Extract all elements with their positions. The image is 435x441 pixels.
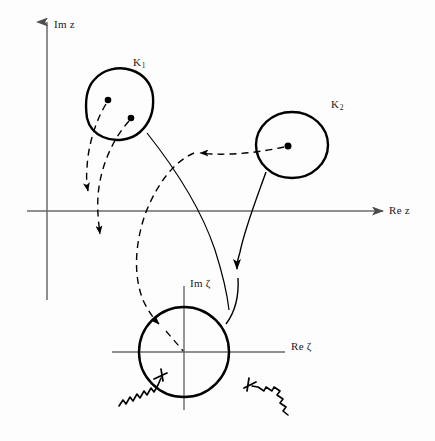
k1-point-2 (128, 115, 135, 122)
solid-mapping-curves (147, 133, 266, 324)
dashed-k1-dot1-down (87, 104, 106, 191)
re-z-axis-label: Re z (389, 204, 410, 216)
curve-k1-to-zeta (147, 133, 229, 310)
dashed-zeta-circle-inner (166, 331, 184, 352)
dashed-k2-dot-to-left (200, 147, 284, 154)
re-zeta-axis-label: Re ζ (291, 340, 312, 352)
squiggle-left-line (119, 378, 161, 406)
k1-label: K1 (133, 56, 145, 68)
z-plane-axes (27, 22, 383, 300)
k1-boundary (86, 68, 153, 140)
dashed-long-to-zeta-circle (137, 153, 194, 324)
figure-canvas (0, 0, 435, 441)
k2-point-1 (285, 143, 292, 150)
complex-plane-mapping-figure: Im z Re z K1 K2 Im ζ Re ζ (0, 0, 435, 441)
k2-boundary (256, 112, 328, 178)
k2-label: K2 (331, 98, 343, 110)
squiggle-right-line (252, 386, 288, 415)
zeta-plane-axes (112, 286, 285, 410)
squiggle-right-arrowhead (244, 378, 256, 391)
region-k1 (86, 68, 153, 140)
k1-point-1 (105, 97, 112, 104)
im-zeta-axis-label: Im ζ (190, 277, 211, 289)
im-z-axis-label: Im z (54, 18, 75, 30)
dashed-mapping-curves (87, 104, 284, 352)
region-k2 (256, 112, 328, 178)
curve-k2-to-zeta-circle (237, 172, 266, 269)
